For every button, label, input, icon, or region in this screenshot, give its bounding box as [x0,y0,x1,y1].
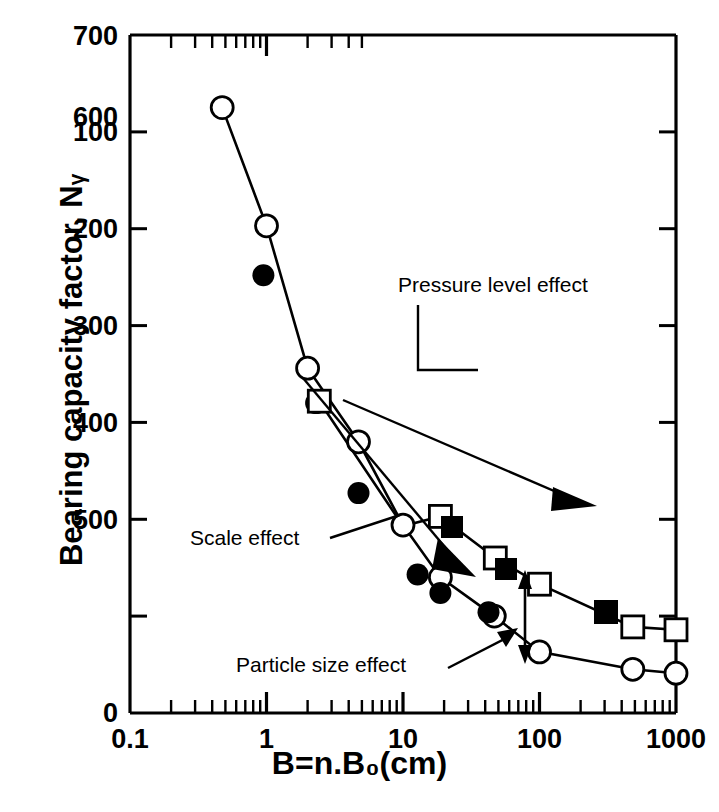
data-point-open-square [622,616,644,638]
y-axis-ticks [130,132,147,616]
chart-canvas: 700 600 500 400 300 200 100 0 [0,0,719,812]
y-axis-ticks-right [659,132,676,616]
data-point-open-circle [665,662,687,684]
x-axis-ticks-minor [171,700,670,713]
scale-effect-label: Scale effect [190,526,300,549]
data-point-open-square [665,619,687,641]
data-point-filled-circle [429,582,451,604]
x-axis-label: B=n.B₀(cm) [0,745,719,782]
y-axis-label: Bearing capacity factor, Nᵧ [54,40,90,700]
pressure-level-effect-leader [418,305,478,370]
chart-figure: Bearing capacity factor, Nᵧ 700 600 500 … [0,0,719,812]
data-point-filled-circle [407,564,429,586]
data-point-filled-circle [252,264,274,286]
open-square-curve-line [319,401,676,630]
data-point-open-circle [211,97,233,119]
data-point-open-square [529,573,551,595]
x-axis-label-text: B=n.B₀(cm) [272,745,447,781]
data-point-open-square [308,390,330,412]
data-point-open-circle [529,641,551,663]
particle-size-effect-arrowhead [497,628,518,647]
data-point-open-circle [622,658,644,680]
data-point-filled-square [594,600,618,624]
scale-effect-arrow-line [303,378,460,565]
pressure-level-effect-label: Pressure level effect [398,273,588,296]
data-point-filled-circle [478,601,500,623]
data-point-filled-circle [348,482,370,504]
annotation-pressure-level-effect: Pressure level effect [343,273,597,511]
annotation-scale-effect: Scale effect [190,378,476,577]
scale-effect-leader [330,515,400,538]
data-point-open-circle [297,357,319,379]
pressure-level-effect-arrowhead [551,487,597,511]
data-point-filled-square [495,558,517,580]
x-axis-ticks-top [171,35,362,56]
y-axis-label-text: Bearing capacity factor, Nᵧ [54,174,89,566]
pressure-level-effect-arrow-line [343,400,575,500]
open-square-markers [308,390,687,641]
data-point-open-circle [256,215,278,237]
particle-size-effect-label: Particle size effect [236,653,406,676]
data-point-filled-square [441,516,463,538]
